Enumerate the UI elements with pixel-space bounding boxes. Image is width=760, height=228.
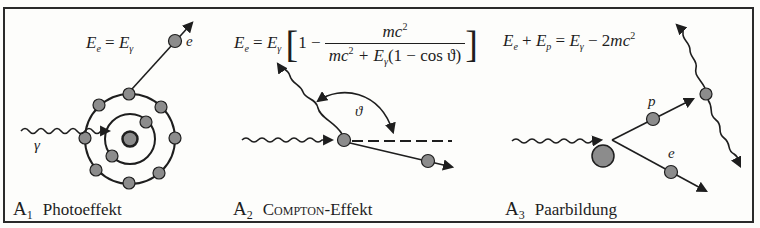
left-bracket: [ — [286, 23, 299, 65]
formula-fraction: mc2 mc2 + Eγ(1 − cos ϑ) — [325, 21, 465, 67]
formula-operator: = — [105, 33, 115, 52]
nucleus — [592, 145, 614, 167]
formula-term: 1 − — [298, 33, 320, 52]
incoming-photon-wave — [21, 129, 109, 134]
target-electron — [338, 134, 351, 147]
annihilation-point — [700, 88, 712, 100]
ejected-electron-track — [132, 23, 192, 89]
nucleus — [123, 132, 138, 147]
formula-pair-production: Ee + Ep = Eγ − 2mc2 — [503, 30, 635, 52]
right-bracket: ] — [465, 23, 478, 65]
formula-subscript: e — [244, 43, 248, 54]
caption-title: Paarbildung — [535, 200, 617, 219]
electron-label: e — [668, 145, 675, 162]
formula-photoeffect: Ee = Eγ — [86, 33, 133, 54]
ejected-electron — [169, 35, 182, 48]
inner-electron — [106, 150, 118, 162]
panel-compton — [242, 64, 452, 168]
caption-letter: A — [233, 198, 247, 219]
caption-letter: A — [505, 198, 519, 219]
scattered-photon-wave — [278, 64, 342, 134]
incoming-photon-wave — [242, 138, 332, 142]
caption-a2: A2Compton-Effekt — [233, 198, 372, 223]
outer-electron — [90, 164, 102, 176]
formula-subscript: γ — [129, 43, 133, 54]
outer-electron — [123, 177, 135, 189]
caption-title-suffix: -Effekt — [325, 200, 373, 219]
formula-operator: = — [253, 33, 263, 52]
formula-subscript: γ — [277, 43, 281, 54]
outer-electron — [155, 101, 167, 113]
annihilation-photon-down — [708, 100, 740, 166]
formula-subscript: e — [96, 43, 100, 54]
caption-title: Photoeffekt — [43, 200, 122, 219]
angle-label: ϑ — [355, 103, 362, 120]
caption-a3: A3Paarbildung — [505, 198, 617, 223]
caption-index: 1 — [27, 208, 33, 222]
caption-index: 3 — [519, 208, 525, 222]
outer-electron — [169, 132, 181, 144]
annihilation-photon-up — [677, 25, 705, 88]
electron — [665, 166, 678, 179]
incoming-photon-wave — [512, 139, 601, 143]
positron — [647, 113, 660, 126]
electron-label: e — [186, 33, 193, 50]
recoil-electron-track — [350, 143, 452, 167]
outer-electron — [93, 99, 105, 111]
caption-title: Compton — [263, 200, 325, 219]
formula-term: E — [234, 33, 244, 52]
outer-electron — [153, 167, 165, 179]
fraction-numerator: mc2 — [325, 21, 465, 44]
formula-term: E — [267, 33, 277, 52]
formula-term: E — [86, 33, 96, 52]
fraction-denominator: mc2 + Eγ(1 − cos ϑ) — [325, 44, 465, 67]
outer-electron — [123, 88, 135, 100]
formula-term: E — [119, 33, 129, 52]
caption-letter: A — [13, 198, 27, 219]
photon-label: γ — [34, 137, 40, 154]
electron-track — [612, 140, 706, 191]
recoil-electron — [422, 155, 435, 168]
positron-label: p — [648, 93, 656, 110]
formula-compton: Ee = Eγ [1 − mc2 mc2 + Eγ(1 − cos ϑ) ] — [234, 21, 478, 67]
inner-electron — [140, 116, 152, 128]
caption-index: 2 — [247, 208, 253, 222]
caption-a1: A1Photoeffekt — [13, 198, 122, 223]
